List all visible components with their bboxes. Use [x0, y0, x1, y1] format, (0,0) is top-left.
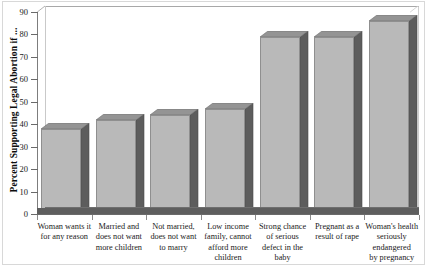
- category-label: Woman wants itfor any reason: [33, 222, 96, 243]
- category-label-line: does not want: [142, 232, 205, 242]
- bar-front-face: [205, 109, 245, 214]
- category-label-line: Woman's health: [360, 222, 423, 232]
- y-tick-label: 90: [2, 7, 28, 17]
- x-tick-mark: [419, 215, 420, 220]
- y-axis-line: [37, 12, 38, 215]
- bar-column: [205, 103, 253, 214]
- category-label: Woman's healthseriously endangeredby pre…: [360, 222, 423, 264]
- category-label-line: seriously endangered: [360, 232, 423, 253]
- x-tick-mark: [255, 215, 256, 220]
- y-tick-label: 0: [2, 209, 28, 219]
- category-label: Strong chanceof seriousdefect in thebaby: [251, 222, 314, 264]
- x-tick-mark: [146, 215, 147, 220]
- category-label-line: children: [197, 253, 260, 263]
- bar-column: [150, 109, 198, 214]
- y-tick-mark: [31, 12, 38, 13]
- y-tick-label: 80: [2, 29, 28, 39]
- category-label: Married anddoes not wantmore children: [88, 222, 151, 253]
- category-label-line: by pregnancy: [360, 253, 423, 263]
- bar-side-face: [136, 114, 145, 215]
- bar-side-face: [354, 31, 363, 215]
- category-label-line: Pregnant as a: [306, 222, 369, 232]
- bar-front-face: [96, 120, 136, 214]
- y-tick-mark: [31, 147, 38, 148]
- bar-column: [96, 114, 144, 214]
- category-label-line: to marry: [142, 243, 205, 253]
- category-label: Pregnant as aresult of rape: [306, 222, 369, 243]
- y-tick-mark: [31, 192, 38, 193]
- y-tick-label: 60: [2, 74, 28, 84]
- x-tick-mark: [201, 215, 202, 220]
- y-tick-mark: [31, 34, 38, 35]
- x-tick-mark: [37, 215, 38, 220]
- bar-column: [369, 15, 417, 214]
- x-axis-line: [37, 214, 419, 215]
- category-label: Low incomefamily, cannotafford morechild…: [197, 222, 260, 264]
- x-axis-category-labels: Woman wants itfor any reasonMarried andd…: [37, 222, 419, 268]
- bar-chart: Percent Supporting Legal Abortion if ...…: [0, 0, 428, 268]
- plot-area: 0102030405060708090 Woman wants itfor an…: [0, 0, 428, 268]
- category-label-line: result of rape: [306, 232, 369, 242]
- y-tick-label: 50: [2, 97, 28, 107]
- y-tick-label: 20: [2, 164, 28, 174]
- y-tick-label: 40: [2, 119, 28, 129]
- category-label-line: for any reason: [33, 232, 96, 242]
- bar-side-face: [81, 123, 90, 215]
- category-label-line: Not married,: [142, 222, 205, 232]
- category-label-line: does not want: [88, 232, 151, 242]
- bar-side-face: [245, 103, 254, 215]
- y-tick-mark: [31, 102, 38, 103]
- bar-front-face: [41, 129, 81, 214]
- category-label-line: of serious: [251, 232, 314, 242]
- category-label: Not married,does not wantto marry: [142, 222, 205, 253]
- y-tick-label: 10: [2, 187, 28, 197]
- category-label-line: family, cannot: [197, 232, 260, 242]
- category-label-line: baby: [251, 253, 314, 263]
- x-tick-mark: [310, 215, 311, 220]
- y-tick-label: 70: [2, 52, 28, 62]
- category-label-line: Strong chance: [251, 222, 314, 232]
- y-tick-label: 30: [2, 142, 28, 152]
- bar-front-face: [260, 37, 300, 214]
- bar-front-face: [369, 21, 409, 214]
- bar-side-face: [300, 31, 309, 215]
- y-tick-mark: [31, 79, 38, 80]
- bar-front-face: [150, 115, 190, 214]
- bar-column: [260, 31, 308, 214]
- category-label-line: Woman wants it: [33, 222, 96, 232]
- depth-edge-top-left: [37, 6, 46, 13]
- y-tick-mark: [31, 169, 38, 170]
- y-tick-mark: [31, 124, 38, 125]
- bar-front-face: [314, 37, 354, 214]
- plot-floor-top-edge: [45, 207, 419, 208]
- bar-column: [41, 123, 89, 214]
- bar-side-face: [409, 15, 418, 215]
- category-label-line: Married and: [88, 222, 151, 232]
- category-label-line: defect in the: [251, 243, 314, 253]
- x-tick-mark: [92, 215, 93, 220]
- depth-edge-top-right: [410, 6, 419, 13]
- category-label-line: afford more: [197, 243, 260, 253]
- y-tick-mark: [31, 57, 38, 58]
- bar-column: [314, 31, 362, 214]
- category-label-line: more children: [88, 243, 151, 253]
- category-label-line: Low income: [197, 222, 260, 232]
- bar-side-face: [190, 109, 199, 215]
- x-tick-mark: [364, 215, 365, 220]
